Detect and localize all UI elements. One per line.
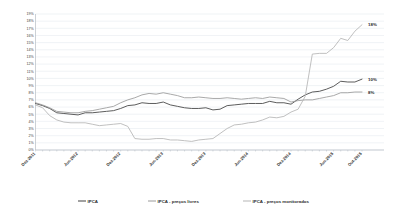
- y-tick-label: 17%: [27, 27, 35, 31]
- y-tick-label: 13%: [27, 55, 35, 59]
- y-tick-label: 19%: [27, 12, 35, 16]
- y-tick-label: 16%: [27, 34, 35, 38]
- series-end-label: 10%: [368, 77, 377, 82]
- y-tick-label: 10%: [27, 77, 35, 81]
- legend-label: IPCA: [88, 199, 99, 204]
- y-tick-label: 11%: [27, 70, 35, 74]
- legend-label: IPCA - preços monitorados: [253, 199, 310, 204]
- legend-label: IPCA - preços livres: [158, 199, 200, 204]
- ipca-line-chart: 0%1%2%3%4%5%6%7%8%9%10%11%12%13%14%15%16…: [0, 0, 398, 221]
- series-end-label: 8%: [368, 90, 374, 95]
- series-end-label: 18%: [368, 22, 377, 27]
- chart-background: [0, 0, 398, 221]
- chart-canvas: 0%1%2%3%4%5%6%7%8%9%10%11%12%13%14%15%16…: [0, 0, 398, 221]
- y-tick-label: 14%: [27, 48, 35, 52]
- y-tick-label: 15%: [27, 41, 35, 45]
- y-tick-label: 18%: [27, 19, 35, 23]
- y-tick-label: 12%: [27, 62, 35, 66]
